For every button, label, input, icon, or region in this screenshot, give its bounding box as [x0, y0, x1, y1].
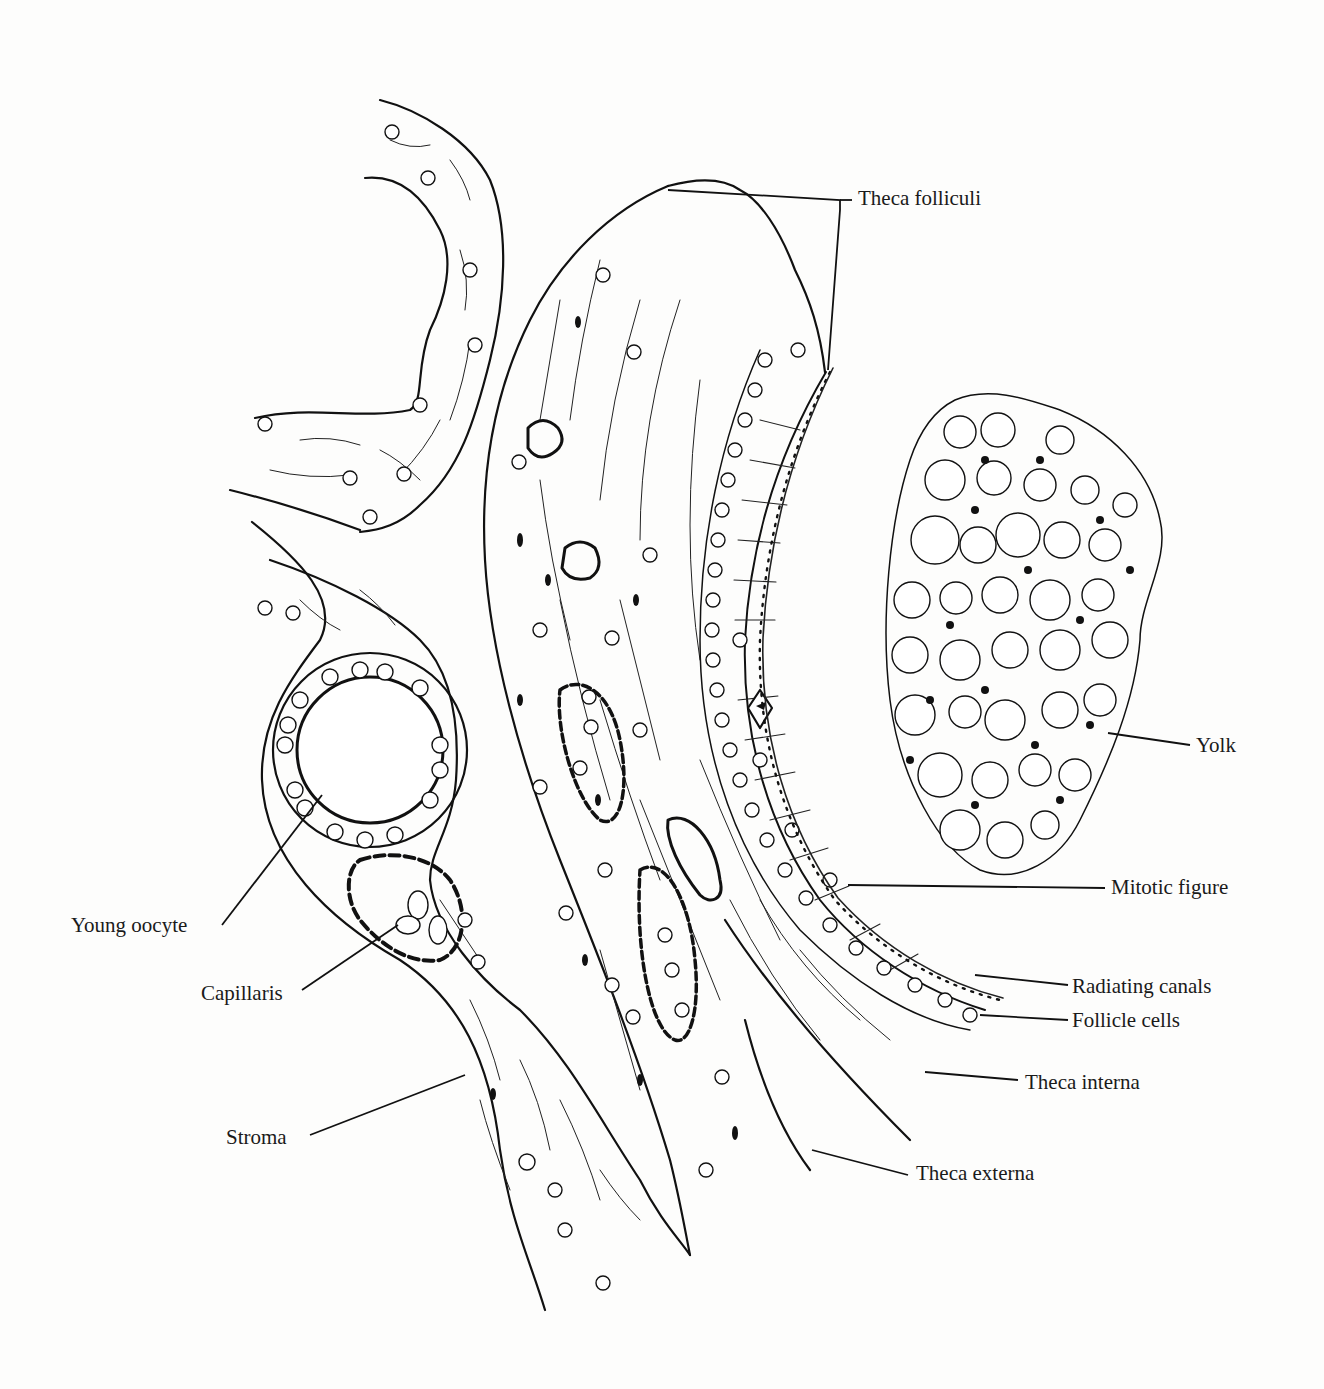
label-stroma: Stroma [226, 1127, 287, 1148]
follicle-wall [484, 181, 910, 1256]
label-capillaris: Capillaris [201, 983, 283, 1004]
label-radiating-canals: Radiating canals [1072, 976, 1211, 997]
left-stroma-band [252, 522, 690, 1310]
label-young-oocyte: Young oocyte [71, 915, 187, 936]
label-yolk: Yolk [1196, 735, 1236, 756]
label-follicle-cells: Follicle cells [1072, 1010, 1180, 1031]
diagram-drawing [0, 0, 1324, 1389]
label-mitotic-figure: Mitotic figure [1111, 877, 1228, 898]
label-theca-interna: Theca interna [1025, 1072, 1140, 1093]
yolk-mass [886, 394, 1162, 875]
upper-stroma-fragment [230, 100, 503, 532]
label-theca-externa: Theca externa [916, 1163, 1034, 1184]
histology-diagram: Theca folliculi Yolk Mitotic figure Youn… [0, 0, 1324, 1389]
label-theca-folliculi: Theca folliculi [858, 188, 981, 209]
